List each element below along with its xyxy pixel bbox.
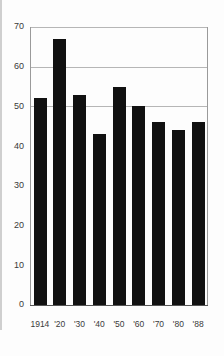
bar-88 [192,122,205,305]
y-tick-label-30: 30 [14,180,24,190]
x-tick-label-70: '70 [153,319,164,329]
x-tick-label-20: '20 [54,319,65,329]
bar-80 [172,130,185,305]
bar-40 [93,134,106,305]
x-tick-label-1914: 1914 [30,319,49,329]
y-tick-label-50: 50 [14,101,24,111]
bar-60 [132,106,145,305]
x-tick-label-80: '80 [173,319,184,329]
y-tick-label-70: 70 [14,21,24,31]
y-tick-label-20: 20 [14,220,24,230]
x-tick-label-60: '60 [133,319,144,329]
y-tick-label-60: 60 [14,61,24,71]
chart-canvas: 010203040506070 1914'20'30'40'50'60'70'8… [0,0,224,356]
bar-20 [53,39,66,305]
bar-70 [152,122,165,305]
y-tick-label-0: 0 [19,299,24,309]
y-tick-label-10: 10 [14,260,24,270]
x-axis-tick-labels: 1914'20'30'40'50'60'70'80'88 [30,319,203,329]
bar-50 [113,87,126,305]
x-tick-label-40: '40 [94,319,105,329]
x-tick-label-88: '88 [193,319,204,329]
bar-chart-figure: 010203040506070 1914'20'30'40'50'60'70'8… [0,0,224,356]
bar-30 [73,95,86,305]
x-tick-label-50: '50 [113,319,124,329]
x-tick-label-30: '30 [74,319,85,329]
y-tick-label-40: 40 [14,141,24,151]
bar-1914 [34,98,47,305]
chart-background [0,0,224,356]
left-page-edge [0,0,2,330]
